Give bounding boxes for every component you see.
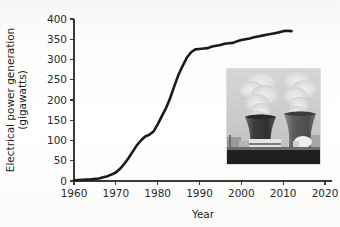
y-tick-label: 250 — [47, 73, 67, 85]
y-axis-title-line1: Electrical power generation — [4, 28, 16, 173]
x-tick-label: 2010 — [270, 187, 297, 199]
y-tick-label: 100 — [47, 134, 67, 146]
photo-foreground-band — [227, 150, 320, 164]
y-tick-label: 200 — [47, 94, 67, 106]
figure-container: 050100150200250300350400 196019701980199… — [0, 0, 340, 227]
y-tick-label: 350 — [47, 33, 67, 45]
x-axis-title: Year — [191, 208, 215, 220]
y-axis-tick-labels: 050100150200250300350400 — [47, 13, 67, 187]
x-tick-label: 1980 — [144, 187, 171, 199]
y-axis-title-line2: (gigawatts) — [16, 70, 28, 130]
y-tick-label: 300 — [47, 53, 67, 65]
y-tick-label: 0 — [60, 175, 67, 187]
x-tick-label: 1990 — [186, 187, 213, 199]
plant-building-center-stripe — [249, 143, 281, 145]
inset-photo-graphic — [227, 69, 320, 164]
x-axis-ticks — [74, 181, 325, 185]
plant-structure-right — [293, 141, 299, 148]
plant-building-right — [311, 135, 320, 148]
plant-stack — [229, 135, 231, 147]
nuclear-plant-inset-photo — [227, 69, 320, 164]
x-tick-label: 1960 — [61, 187, 88, 199]
x-axis-tick-labels: 1960197019801990200020102020 — [61, 187, 339, 199]
x-tick-label: 2020 — [312, 187, 339, 199]
y-tick-label: 150 — [47, 114, 67, 126]
y-tick-label: 50 — [54, 154, 67, 166]
x-tick-label: 1970 — [102, 187, 129, 199]
x-tick-label: 2000 — [228, 187, 255, 199]
y-tick-label: 400 — [47, 13, 67, 25]
